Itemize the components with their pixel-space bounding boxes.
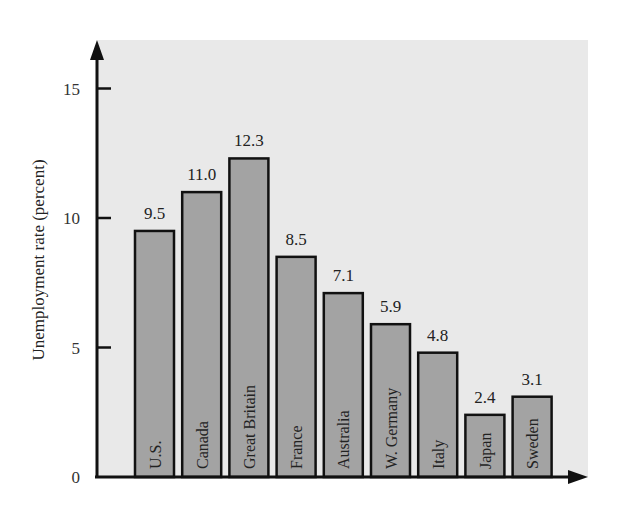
y-tick-label: 10 <box>63 209 80 228</box>
bar-item: 9.5U.S. <box>135 204 174 477</box>
value-label: 5.9 <box>380 297 401 316</box>
bar-item: 8.5France <box>277 230 316 477</box>
value-label: 7.1 <box>333 266 354 285</box>
bar-item: 12.3Great Britain <box>229 131 268 477</box>
y-tick-label: 0 <box>72 468 81 487</box>
category-label: W. Germany <box>383 388 401 469</box>
bar-item: 11.0Canada <box>182 165 221 477</box>
value-label: 4.8 <box>427 326 448 345</box>
category-label: Great Britain <box>241 385 258 469</box>
category-label: Italy <box>430 440 448 469</box>
category-label: France <box>288 425 305 469</box>
category-label: U.S. <box>147 441 164 469</box>
bar-chart: 9.5U.S.11.0Canada12.3Great Britain8.5Fra… <box>0 0 619 505</box>
y-axis-label: Unemployment rate (percent) <box>29 159 48 360</box>
value-label: 12.3 <box>234 131 264 150</box>
category-label: Australia <box>335 410 352 469</box>
category-label: Japan <box>477 433 495 469</box>
y-tick-label: 15 <box>63 80 80 99</box>
value-label: 3.1 <box>521 370 542 389</box>
bar-item: 5.9W. Germany <box>371 297 410 477</box>
value-label: 9.5 <box>144 204 165 223</box>
y-tick-label: 5 <box>72 339 81 358</box>
value-label: 8.5 <box>285 230 306 249</box>
bar <box>135 231 174 477</box>
value-label: 11.0 <box>187 165 216 184</box>
bar-item: 7.1Australia <box>324 266 363 477</box>
value-label: 2.4 <box>474 388 496 407</box>
category-label: Sweden <box>524 418 541 469</box>
category-label: Canada <box>194 421 211 469</box>
